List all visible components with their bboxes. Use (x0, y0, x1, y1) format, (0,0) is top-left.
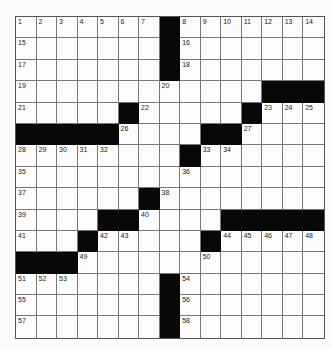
grid-cell[interactable] (37, 295, 58, 316)
grid-cell[interactable] (139, 60, 160, 81)
grid-cell[interactable]: 33 (201, 145, 222, 166)
grid-cell[interactable] (242, 295, 263, 316)
grid-cell[interactable]: 5 (98, 17, 119, 38)
grid-cell[interactable]: 38 (160, 188, 181, 209)
grid-cell[interactable] (78, 60, 99, 81)
grid-cell[interactable] (283, 274, 304, 295)
grid-cell[interactable]: 23 (262, 103, 283, 124)
grid-cell[interactable] (37, 60, 58, 81)
grid-cell[interactable] (160, 210, 181, 231)
grid-cell[interactable] (98, 103, 119, 124)
grid-cell[interactable] (180, 103, 201, 124)
grid-cell[interactable] (221, 167, 242, 188)
grid-cell[interactable] (98, 60, 119, 81)
grid-cell[interactable]: 30 (57, 145, 78, 166)
grid-cell[interactable] (221, 81, 242, 102)
grid-cell[interactable] (119, 81, 140, 102)
grid-cell[interactable] (37, 188, 58, 209)
grid-cell[interactable] (37, 210, 58, 231)
grid-cell[interactable]: 6 (119, 17, 140, 38)
grid-cell[interactable] (139, 274, 160, 295)
grid-cell[interactable] (201, 188, 222, 209)
grid-cell[interactable]: 54 (180, 274, 201, 295)
grid-cell[interactable] (262, 252, 283, 273)
grid-cell[interactable] (201, 167, 222, 188)
grid-cell[interactable]: 27 (242, 124, 263, 145)
grid-cell[interactable]: 1 (16, 17, 37, 38)
grid-cell[interactable]: 40 (139, 210, 160, 231)
grid-cell[interactable]: 43 (119, 231, 140, 252)
grid-cell[interactable] (262, 124, 283, 145)
grid-cell[interactable] (139, 316, 160, 337)
grid-cell[interactable] (139, 167, 160, 188)
grid-cell[interactable] (139, 81, 160, 102)
grid-cell[interactable] (78, 295, 99, 316)
grid-cell[interactable] (37, 231, 58, 252)
grid-cell[interactable] (242, 274, 263, 295)
grid-cell[interactable] (303, 188, 324, 209)
grid-cell[interactable] (283, 167, 304, 188)
grid-cell[interactable]: 32 (98, 145, 119, 166)
grid-cell[interactable] (283, 252, 304, 273)
grid-cell[interactable] (119, 145, 140, 166)
grid-cell[interactable] (37, 316, 58, 337)
grid-cell[interactable] (283, 316, 304, 337)
grid-cell[interactable] (201, 274, 222, 295)
grid-cell[interactable]: 14 (303, 17, 324, 38)
grid-cell[interactable]: 19 (16, 81, 37, 102)
grid-cell[interactable] (119, 295, 140, 316)
grid-cell[interactable]: 35 (16, 167, 37, 188)
grid-cell[interactable] (303, 145, 324, 166)
grid-cell[interactable] (57, 188, 78, 209)
grid-cell[interactable] (98, 316, 119, 337)
grid-cell[interactable] (180, 231, 201, 252)
grid-cell[interactable] (242, 316, 263, 337)
grid-cell[interactable] (221, 274, 242, 295)
grid-cell[interactable]: 46 (262, 231, 283, 252)
grid-cell[interactable] (78, 274, 99, 295)
grid-cell[interactable]: 8 (180, 17, 201, 38)
grid-cell[interactable] (119, 60, 140, 81)
grid-cell[interactable] (139, 295, 160, 316)
grid-cell[interactable] (98, 167, 119, 188)
grid-cell[interactable] (283, 124, 304, 145)
grid-cell[interactable] (303, 252, 324, 273)
grid-cell[interactable]: 34 (221, 145, 242, 166)
grid-cell[interactable] (262, 60, 283, 81)
grid-cell[interactable] (283, 38, 304, 59)
grid-cell[interactable] (57, 316, 78, 337)
grid-cell[interactable]: 41 (16, 231, 37, 252)
grid-cell[interactable] (98, 38, 119, 59)
grid-cell[interactable] (262, 38, 283, 59)
grid-cell[interactable]: 7 (139, 17, 160, 38)
grid-cell[interactable] (180, 124, 201, 145)
grid-cell[interactable] (139, 231, 160, 252)
grid-cell[interactable] (201, 295, 222, 316)
grid-cell[interactable] (262, 145, 283, 166)
grid-cell[interactable] (180, 81, 201, 102)
grid-cell[interactable] (221, 103, 242, 124)
grid-cell[interactable] (303, 167, 324, 188)
grid-cell[interactable] (221, 295, 242, 316)
grid-cell[interactable] (119, 167, 140, 188)
grid-cell[interactable]: 50 (201, 252, 222, 273)
grid-cell[interactable]: 15 (16, 38, 37, 59)
grid-cell[interactable]: 10 (221, 17, 242, 38)
grid-cell[interactable] (119, 38, 140, 59)
grid-cell[interactable] (303, 124, 324, 145)
grid-cell[interactable]: 4 (78, 17, 99, 38)
grid-cell[interactable] (57, 81, 78, 102)
grid-cell[interactable] (160, 231, 181, 252)
grid-cell[interactable] (160, 167, 181, 188)
grid-cell[interactable] (283, 295, 304, 316)
grid-cell[interactable] (119, 188, 140, 209)
grid-cell[interactable] (57, 103, 78, 124)
grid-cell[interactable] (78, 81, 99, 102)
grid-cell[interactable] (139, 252, 160, 273)
grid-cell[interactable] (57, 167, 78, 188)
grid-cell[interactable] (262, 188, 283, 209)
grid-cell[interactable] (201, 60, 222, 81)
grid-cell[interactable]: 57 (16, 316, 37, 337)
grid-cell[interactable] (37, 103, 58, 124)
grid-cell[interactable] (98, 274, 119, 295)
